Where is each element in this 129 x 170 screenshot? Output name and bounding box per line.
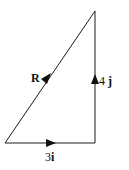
label-r: R	[31, 71, 40, 85]
vector-triangle-diagram: R 4 j 3i	[0, 0, 129, 170]
arrow-up-icon	[91, 74, 99, 84]
vector-r-line	[5, 11, 95, 143]
arrow-right-icon	[46, 139, 56, 147]
label-3i: 3i	[45, 150, 55, 164]
label-4j: 4 j	[99, 74, 112, 88]
